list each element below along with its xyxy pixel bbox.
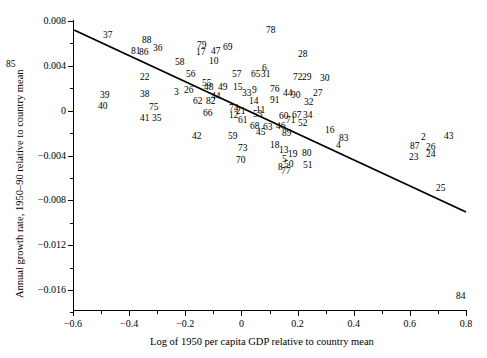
- data-point-label: 65: [251, 70, 261, 80]
- x-tick-minor: [213, 311, 214, 314]
- data-point-label: 77: [281, 167, 291, 177]
- x-tick-major: [354, 311, 355, 316]
- y-tick-major: [68, 245, 73, 246]
- x-tick-major: [298, 311, 299, 316]
- data-point-label: 43: [444, 132, 454, 142]
- data-point-label: 29: [302, 73, 312, 83]
- data-point-label: 40: [98, 102, 108, 112]
- x-tick-label: −0.4: [104, 319, 154, 329]
- y-tick-major: [68, 21, 73, 22]
- y-tick-major: [68, 66, 73, 67]
- x-tick-label: −0.2: [160, 319, 210, 329]
- x-axis-title: Log of 1950 per capita GDP relative to c…: [150, 336, 374, 347]
- data-point-label: 57: [232, 70, 242, 80]
- data-point-label: 89: [282, 129, 292, 139]
- data-point-label: 52: [298, 119, 308, 129]
- data-point-label: 76: [270, 85, 280, 95]
- x-tick-minor: [382, 311, 383, 314]
- data-point-label: 24: [426, 150, 436, 160]
- regression-line: [74, 30, 466, 212]
- data-point-label: 90: [291, 91, 301, 101]
- y-tick-minor: [70, 268, 73, 269]
- data-point-label: 30: [320, 74, 330, 84]
- data-point-label: 75: [149, 103, 159, 113]
- data-point-label: 62: [193, 97, 203, 107]
- data-point-label: 10: [209, 57, 219, 67]
- data-point-label: 70: [236, 156, 246, 166]
- x-tick-label: 0.4: [329, 319, 379, 329]
- data-point-label: 31: [261, 70, 271, 80]
- x-tick-label: 0.8: [441, 319, 487, 329]
- data-point-label: 82: [206, 97, 216, 107]
- x-tick-major: [129, 311, 130, 316]
- x-tick-minor: [101, 311, 102, 314]
- y-tick-major: [68, 156, 73, 157]
- data-point-label: 91: [270, 96, 280, 106]
- data-point-label: 39: [100, 91, 110, 101]
- x-tick-label: −0.6: [48, 319, 98, 329]
- data-point-label: 59: [228, 132, 238, 142]
- data-point-label: 37: [103, 31, 113, 41]
- data-point-label: 87: [410, 142, 420, 152]
- data-point-label: 88: [142, 36, 152, 46]
- y-tick-minor: [70, 88, 73, 89]
- data-point-label: 69: [223, 43, 233, 53]
- x-tick-major: [466, 311, 467, 316]
- y-tick-label: 0: [25, 106, 66, 116]
- y-tick-minor: [70, 133, 73, 134]
- data-point-label: 23: [409, 153, 419, 163]
- x-tick-minor: [438, 311, 439, 314]
- x-tick-major: [241, 311, 242, 316]
- data-point-label: 45: [256, 128, 266, 138]
- y-tick-minor: [70, 43, 73, 44]
- data-point-label: 61: [238, 116, 248, 126]
- y-tick-label: −0.004: [25, 151, 66, 161]
- scatter-plot-figure: 0.0080.0040−0.004−0.008−0.012−0.016 −0.6…: [0, 0, 487, 358]
- data-point-label: 3: [174, 88, 179, 98]
- y-tick-label: 0.004: [25, 61, 66, 71]
- data-point-label: 4: [336, 141, 341, 151]
- y-tick-label: −0.016: [25, 285, 66, 295]
- data-point-label: 32: [304, 98, 314, 108]
- data-point-label: 28: [298, 50, 308, 60]
- x-tick-minor: [270, 311, 271, 314]
- x-tick-label: 0.2: [273, 319, 323, 329]
- data-point-label: 17: [196, 48, 206, 58]
- y-tick-label: 0.008: [25, 16, 66, 26]
- data-point-label: 22: [140, 73, 150, 83]
- data-point-label: 9: [252, 86, 257, 96]
- data-point-label: 26: [184, 86, 194, 96]
- data-point-label: 38: [140, 90, 150, 100]
- data-point-label: 42: [192, 132, 202, 142]
- data-point-label: 58: [175, 58, 185, 68]
- y-tick-minor: [70, 223, 73, 224]
- data-point-label: 84: [456, 292, 466, 302]
- data-point-label: 35: [152, 114, 162, 124]
- x-tick-minor: [157, 311, 158, 314]
- data-point-label: 66: [203, 109, 213, 119]
- y-tick-major: [68, 290, 73, 291]
- x-tick-major: [185, 311, 186, 316]
- x-tick-minor: [326, 311, 327, 314]
- data-point-label: 41: [140, 114, 150, 124]
- x-tick-label: 0: [216, 319, 266, 329]
- y-tick-major: [68, 200, 73, 201]
- y-tick-major: [68, 111, 73, 112]
- x-tick-major: [73, 311, 74, 316]
- data-point-label: 53: [253, 110, 263, 120]
- data-point-label: 51: [303, 161, 313, 171]
- y-axis-title: Annual growth rate, 1950–90 relative to …: [14, 69, 25, 298]
- data-point-label: 86: [139, 48, 149, 58]
- y-tick-label: −0.012: [25, 240, 66, 250]
- data-point-label: 16: [325, 126, 335, 136]
- data-point-label: 25: [436, 184, 446, 194]
- x-tick-label: 0.6: [385, 319, 435, 329]
- y-tick-label: −0.008: [25, 195, 66, 205]
- data-point-label: 80: [302, 149, 312, 159]
- y-tick-minor: [70, 178, 73, 179]
- data-point-label: 36: [153, 44, 163, 54]
- data-point-label: 71: [286, 116, 296, 126]
- data-point-label: 78: [266, 26, 276, 36]
- data-point-label: 27: [313, 89, 323, 99]
- data-point-label: 73: [238, 144, 248, 154]
